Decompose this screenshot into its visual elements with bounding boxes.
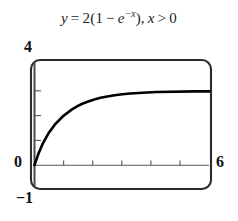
plot-frame bbox=[31, 60, 211, 189]
exponential-growth-figure: y=2(1−e−x),x>0 4 0 −1 6 bbox=[0, 0, 238, 221]
x-axis-max-label: 6 bbox=[216, 154, 224, 170]
plot-canvas bbox=[0, 0, 238, 221]
y-axis-max-label: 4 bbox=[24, 39, 32, 55]
y-axis-min-label: −1 bbox=[16, 190, 33, 206]
origin-label: 0 bbox=[14, 154, 22, 170]
